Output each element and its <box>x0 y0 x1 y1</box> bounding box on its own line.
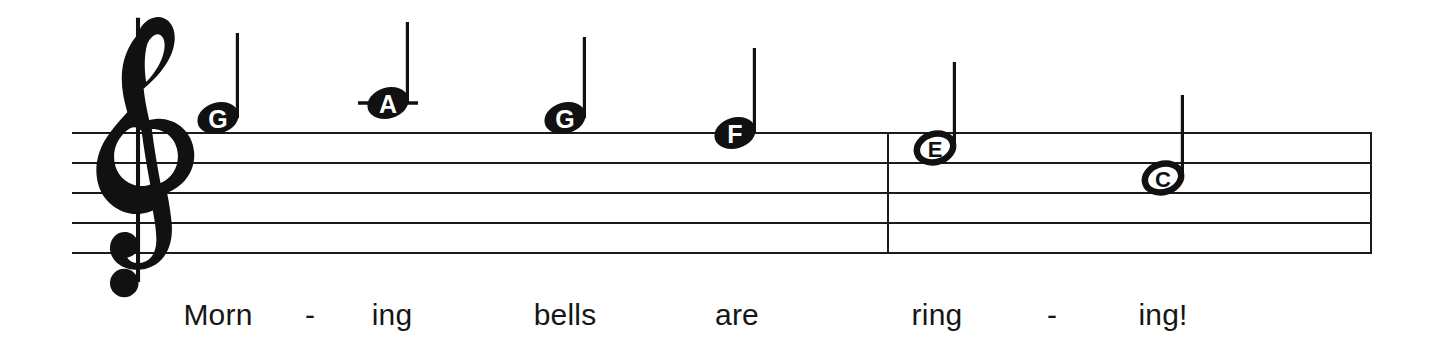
notation-canvas: GAGFEC <box>0 0 1433 342</box>
lyric-syllable: bells <box>534 300 597 330</box>
noteheads: GAGFEC <box>193 82 1184 197</box>
lyric-syllable: are <box>715 300 759 330</box>
lyric-syllable: ring <box>912 300 963 330</box>
lyric-syllable: ing <box>372 300 413 330</box>
lyric-syllable: Morn <box>183 300 252 330</box>
note-c-6: C <box>1141 159 1185 197</box>
lyric-hyphen: - <box>1047 300 1057 330</box>
music-notation-sheet: GAGFEC Morn-ingbellsarering-ing! <box>0 0 1433 342</box>
note-letter-5: E <box>928 137 943 162</box>
note-letter-1: G <box>208 105 227 133</box>
note-e-5: E <box>913 129 957 167</box>
lyric-syllable: ing! <box>1138 300 1187 330</box>
note-a-2: A <box>363 82 412 124</box>
lyric-hyphen: - <box>305 300 315 330</box>
note-letter-2: A <box>379 90 397 118</box>
note-letter-6: C <box>1155 167 1171 192</box>
staff-lines <box>72 133 1372 253</box>
note-f-4: F <box>710 112 759 154</box>
note-letter-3: G <box>555 105 574 133</box>
treble-clef-icon <box>96 17 194 297</box>
note-letter-4: F <box>727 120 742 148</box>
